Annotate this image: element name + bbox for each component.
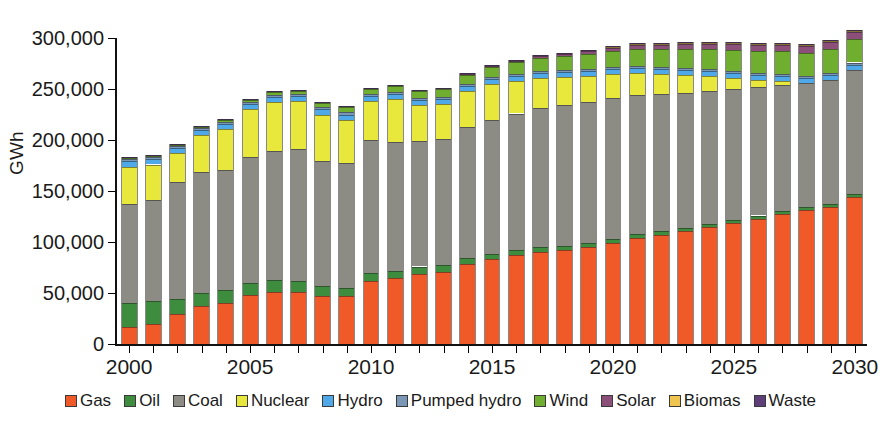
bar-segment-hydro [509, 76, 524, 81]
legend-item-gas[interactable]: Gas [65, 392, 111, 409]
x-tick-mark [177, 346, 178, 353]
bar-2020 [605, 46, 622, 344]
bar-segment-solar [630, 45, 645, 49]
bar-segment-nuclear [606, 74, 621, 98]
bar-segment-hydro [654, 69, 669, 74]
bar-segment-hydro [678, 70, 693, 75]
bar-segment-oil [146, 301, 161, 323]
bar-segment-coal [799, 83, 814, 207]
x-tick-mark [831, 346, 832, 353]
bar-segment-coal [388, 142, 403, 271]
legend-item-hydro[interactable]: Hydro [322, 392, 382, 409]
bar-2001 [145, 155, 162, 344]
bar-segment-wind [654, 49, 669, 66]
legend-item-oil[interactable]: Oil [124, 392, 160, 409]
bar-segment-oil [218, 290, 233, 303]
x-tick-mark [637, 346, 638, 353]
bar-segment-wind [606, 51, 621, 66]
bar-segment-oil [412, 267, 427, 274]
bar-segment-pumped-hydro [509, 74, 524, 76]
bar-segment-biomas [654, 44, 669, 45]
bar-segment-coal [606, 98, 621, 239]
bar-segment-oil [606, 239, 621, 243]
legend-item-solar[interactable]: Solar [601, 392, 656, 409]
bar-segment-waste [436, 88, 451, 89]
bar-segment-coal [630, 95, 645, 234]
bar-segment-gas [533, 252, 548, 344]
bar-segment-nuclear [533, 78, 548, 109]
bar-segment-gas [339, 296, 354, 344]
bar-segment-pumped-hydro [775, 74, 790, 76]
bar-segment-solar [460, 74, 475, 75]
x-tick-mark [129, 346, 130, 353]
bar-segment-coal [751, 87, 766, 216]
legend-swatch-icon [124, 395, 136, 407]
bar-segment-oil [315, 286, 330, 296]
bar-2030 [846, 30, 863, 344]
bar-segment-hydro [581, 71, 596, 76]
bar-segment-wind [678, 49, 693, 67]
bar-segment-waste [267, 91, 282, 92]
bar-segment-coal [726, 89, 741, 220]
bar-segment-solar [533, 56, 548, 58]
bar-segment-oil [847, 194, 862, 197]
bar-segment-waste [388, 85, 403, 86]
bar-segment-gas [847, 197, 862, 344]
bar-segment-oil [436, 265, 451, 271]
bar-segment-nuclear [315, 115, 330, 162]
bar-segment-coal [122, 204, 137, 303]
x-tick-mark [758, 346, 759, 353]
bar-segment-gas [267, 292, 282, 344]
x-tick-mark [444, 346, 445, 353]
bar-segment-hydro [122, 161, 137, 166]
bar-segment-solar [654, 45, 669, 49]
y-tick-label: 50,000 [0, 283, 104, 303]
bar-segment-hydro [726, 73, 741, 78]
bar-segment-gas [606, 243, 621, 344]
bar-segment-gas [364, 281, 379, 344]
bar-segment-gas [775, 214, 790, 344]
bar-segment-pumped-hydro [630, 66, 645, 68]
y-tick-label: 150,000 [0, 181, 104, 201]
bar-segment-nuclear [485, 84, 500, 120]
bar-segment-wind [388, 86, 403, 92]
bar-segment-gas [751, 219, 766, 344]
legend-item-wind[interactable]: Wind [534, 392, 588, 409]
bar-segment-pumped-hydro [460, 84, 475, 86]
bar-2002 [169, 144, 186, 344]
bar-segment-hydro [823, 75, 838, 80]
bar-segment-coal [847, 70, 862, 194]
bar-2022 [653, 43, 670, 344]
bar-segment-waste [678, 42, 693, 43]
bar-segment-wind [170, 145, 185, 146]
legend-item-waste[interactable]: Waste [754, 392, 817, 409]
bar-segment-biomas [847, 31, 862, 32]
bar-segment-wind [436, 89, 451, 97]
bar-segment-pumped-hydro [315, 107, 330, 109]
bar-segment-waste [533, 55, 548, 56]
bar-segment-oil [243, 283, 258, 295]
bar-segment-wind [146, 156, 161, 157]
x-axis-line [115, 344, 867, 346]
bar-2012 [411, 90, 428, 344]
bar-segment-nuclear [146, 165, 161, 201]
bar-segment-hydro [412, 100, 427, 105]
bar-segment-nuclear [678, 75, 693, 93]
bar-segment-waste [170, 144, 185, 145]
legend-item-pumped-hydro[interactable]: Pumped hydro [396, 392, 522, 409]
bar-segment-gas [823, 207, 838, 344]
bar-2000 [121, 157, 138, 344]
bar-segment-wind [412, 91, 427, 98]
x-tick-mark [298, 346, 299, 353]
bar-segment-pumped-hydro [847, 63, 862, 65]
bar-segment-coal [218, 170, 233, 290]
bar-segment-waste [194, 126, 209, 127]
bar-segment-coal [315, 161, 330, 285]
bar-segment-hydro [218, 124, 233, 129]
legend-label: Nuclear [251, 392, 310, 409]
legend-item-coal[interactable]: Coal [173, 392, 223, 409]
bar-segment-pumped-hydro [533, 71, 548, 73]
x-tick-mark [274, 346, 275, 353]
legend-item-nuclear[interactable]: Nuclear [236, 392, 310, 409]
legend-item-biomas[interactable]: Biomas [669, 392, 741, 409]
